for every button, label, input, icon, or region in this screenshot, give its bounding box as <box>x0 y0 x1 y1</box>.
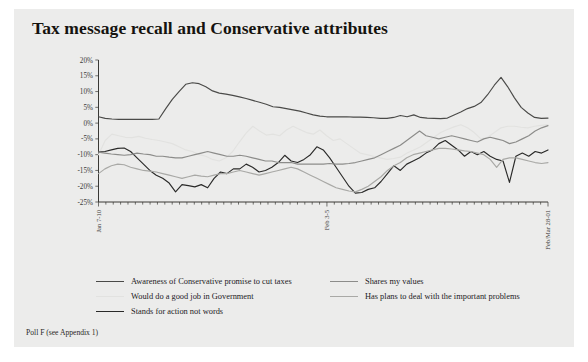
x-tick-label: Feb/Mar 28-01 <box>544 210 551 250</box>
legend-item[interactable]: Awareness of Conservative promise to cut… <box>96 274 326 289</box>
legend-column-right: Shares my valuesHas plans to deal with t… <box>330 274 566 304</box>
x-axis <box>99 202 549 207</box>
x-tick-label: Feb 3-5 <box>323 209 330 230</box>
y-tick-label: 5% <box>83 104 93 112</box>
chart-legend: Awareness of Conservative promise to cut… <box>96 274 566 320</box>
legend-item[interactable]: Stands for action not words <box>96 304 326 319</box>
legend-item-label: Has plans to deal with the important pro… <box>365 292 520 301</box>
legend-item[interactable]: Shares my values <box>330 274 566 289</box>
y-tick-label: 0% <box>83 120 93 128</box>
legend-item-label: Stands for action not words <box>131 307 223 316</box>
chart-page: Tax message recall and Conservative attr… <box>0 0 588 362</box>
legend-item[interactable]: Would do a good job in Government <box>96 289 326 304</box>
source-note: Poll F (see Appendix 1) <box>26 328 98 337</box>
y-tick-label: -5% <box>81 135 93 143</box>
series-line <box>99 140 549 193</box>
legend-item-label: Shares my values <box>365 277 424 286</box>
y-tick-label: -10% <box>77 151 93 159</box>
y-tick-label: 15% <box>80 72 93 80</box>
series-line <box>99 125 549 161</box>
legend-swatch-icon <box>96 311 124 312</box>
legend-item[interactable]: Has plans to deal with the important pro… <box>330 289 566 304</box>
x-axis-labels: Jan 7-10Feb 3-5Feb/Mar 28-01 <box>95 209 552 249</box>
y-tick-label: 20% <box>80 57 93 65</box>
legend-swatch-icon <box>96 296 124 297</box>
y-tick-label: 10% <box>80 88 93 96</box>
legend-column-left: Awareness of Conservative promise to cut… <box>96 274 326 319</box>
x-tick-label: Jan 7-10 <box>95 209 102 232</box>
legend-item-label: Would do a good job in Government <box>131 292 254 301</box>
legend-item-label: Awareness of Conservative promise to cut… <box>131 277 292 286</box>
legend-swatch-icon <box>96 281 124 282</box>
y-tick-label: -20% <box>77 183 93 191</box>
series-line <box>99 126 549 164</box>
y-tick-label: -25% <box>77 199 93 207</box>
legend-swatch-icon <box>330 281 358 282</box>
series-lines <box>99 77 549 193</box>
y-tick-label: -15% <box>77 167 93 175</box>
series-line <box>99 77 549 119</box>
legend-swatch-icon <box>330 296 358 297</box>
series-line <box>99 148 549 192</box>
y-axis: 20%15%10%5%0%-5%-10%-15%-20%-25% <box>77 57 98 207</box>
